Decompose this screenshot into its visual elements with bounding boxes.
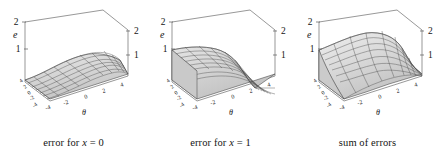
y-tick-4-3: 4 — [312, 77, 318, 84]
z-axis-1: e 2 1 — [13, 17, 28, 54]
x-tick-m2-2: -2 — [209, 99, 216, 106]
surface-chart-3: e 2 1 2 1 4 2 0 -2 -4 — [294, 0, 441, 128]
panel-caption-2: error for x = 1 — [147, 137, 294, 148]
caption-text-1: error for — [43, 137, 82, 148]
x-axis-label-1: θ — [82, 108, 86, 117]
plot-area-2: e 2 1 2 1 4 2 0 -2 -4 — [147, 0, 294, 128]
y-tick-4-2: 4 — [165, 77, 171, 84]
z-axis-label-1: e — [13, 29, 18, 40]
surface-panel-error-x1: e 2 1 2 1 4 2 0 -2 -4 — [147, 0, 294, 152]
y-tick-2-1: 2 — [22, 83, 28, 90]
x-tick-0-3: 0 — [377, 93, 382, 100]
x-tick-4-1: 4 — [119, 81, 124, 88]
plot-area-3: e 2 1 2 1 4 2 0 -2 -4 — [294, 0, 441, 128]
x-tick-m4-1: -4 — [44, 104, 51, 111]
y-tick-m2-3: -2 — [322, 94, 330, 102]
y-tick-2-2: 2 — [169, 83, 175, 90]
surface-mesh-3 — [319, 31, 422, 99]
x-tick-0-1: 0 — [83, 93, 88, 100]
x-tick-m4-3: -4 — [338, 104, 345, 111]
z-tick-2-right-2: 2 — [281, 26, 286, 36]
y-tick-m2-2: -2 — [175, 94, 183, 102]
z-tick-2-left-1: 2 — [14, 17, 19, 27]
surface-mesh-1 — [25, 51, 128, 99]
x-tick-0-2: 0 — [230, 93, 235, 100]
surface-panel-error-x0: e 2 1 2 1 4 2 0 -2 — [0, 0, 147, 152]
y-tick-m4-1: -4 — [31, 101, 39, 109]
z-tick-1-left-2: 1 — [163, 44, 168, 54]
y-tick-m4-2: -4 — [178, 101, 186, 109]
panel-caption-3: sum of errors — [294, 137, 441, 148]
z-tick-2-right-1: 2 — [134, 26, 139, 36]
y-tick-m2-1: -2 — [28, 94, 36, 102]
surface-chart-2: e 2 1 2 1 4 2 0 -2 -4 — [147, 0, 294, 128]
x-tick-m4-2: -4 — [191, 104, 198, 111]
x-tick-4-2: 4 — [266, 81, 271, 88]
x-axis-label-2: θ — [229, 108, 233, 117]
z-axis-label-3: e — [307, 29, 312, 40]
z-tick-1-right-2: 1 — [281, 50, 286, 60]
surface-mesh-2 — [172, 46, 275, 99]
x-tick-4-3: 4 — [413, 81, 418, 88]
x-tick-2-2: 2 — [248, 87, 253, 94]
z-tick-1-right-1: 1 — [134, 50, 139, 60]
caption-text-2: error for — [190, 137, 229, 148]
z-tick-2-left-2: 2 — [161, 17, 166, 27]
y-tick-2-3: 2 — [316, 83, 322, 90]
x-axis-label-3: θ — [376, 108, 380, 117]
y-tick-m4-3: -4 — [325, 101, 333, 109]
z-tick-1-left-1: 1 — [16, 44, 21, 54]
three-surface-plot-figure: e 2 1 2 1 4 2 0 -2 — [0, 0, 441, 152]
panel-caption-1: error for x = 0 — [0, 137, 147, 148]
y-tick-4-1: 4 — [18, 77, 24, 84]
caption-text-3: sum of errors — [339, 137, 396, 148]
x-tick-2-1: 2 — [101, 87, 106, 94]
z-tick-2-right-3: 2 — [428, 26, 433, 36]
plot-area-1: e 2 1 2 1 4 2 0 -2 — [0, 0, 147, 128]
x-tick-m2-1: -2 — [62, 99, 69, 106]
x-tick-2-3: 2 — [395, 87, 400, 94]
z-tick-1-right-3: 1 — [428, 50, 433, 60]
z-axis-2: e 2 1 — [160, 17, 175, 54]
surface-panel-sum-of-errors: e 2 1 2 1 4 2 0 -2 -4 — [294, 0, 441, 152]
z-tick-2-left-3: 2 — [308, 17, 313, 27]
surface-chart-1: e 2 1 2 1 4 2 0 -2 — [0, 0, 147, 128]
caption-suffix-1: = 0 — [87, 137, 104, 148]
caption-suffix-2: = 1 — [234, 137, 251, 148]
x-tick-m2-3: -2 — [356, 99, 363, 106]
z-axis-label-2: e — [160, 29, 165, 40]
z-tick-1-left-3: 1 — [310, 44, 315, 54]
z-axis-3: e 2 1 — [307, 17, 322, 54]
